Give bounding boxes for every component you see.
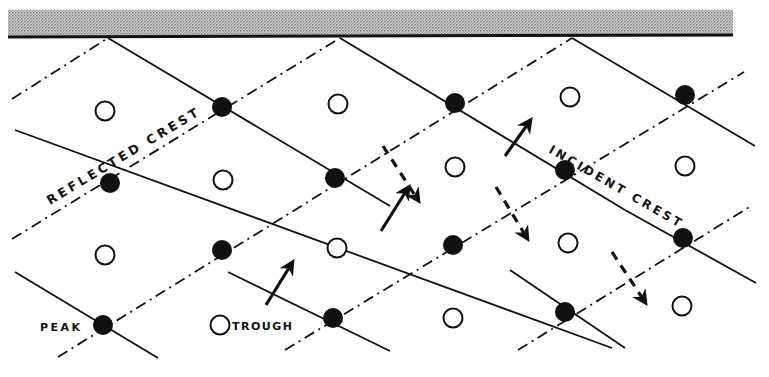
wall-edge (8, 35, 733, 37)
trough-circle (214, 171, 233, 190)
incident-direction-arrows (266, 121, 530, 305)
peak-dot (212, 240, 232, 260)
reflected-crest-line (12, 38, 108, 99)
incident-crest-line (228, 272, 390, 351)
incident-arrow-icon (381, 188, 408, 231)
reflected-arrow-icon (612, 252, 645, 302)
trough-circle (673, 297, 692, 316)
trough-label: TROUGH (232, 320, 294, 333)
peak-label: PEAK (40, 321, 83, 334)
peak-dot (212, 97, 232, 117)
reflected-crest-line (58, 38, 572, 357)
incident-arrow-icon (266, 263, 292, 305)
reflected-arrow-icon (496, 187, 527, 238)
trough-circle (446, 158, 465, 177)
incident-crest-line (340, 38, 625, 210)
trough-circle (559, 234, 578, 253)
peak-dot (673, 228, 693, 248)
trough-circle (329, 95, 348, 114)
peak-dot (555, 302, 575, 322)
reflected-crest-line (12, 38, 340, 239)
wave-reflection-diagram: REFLECTED CREST INCIDENT CREST PEAK TROU… (0, 0, 769, 377)
reflected-crest-line (518, 206, 751, 350)
incident-crest-line (572, 38, 755, 146)
trough-circle (96, 246, 115, 265)
peak-dot (443, 235, 463, 255)
reflecting-wall (8, 10, 733, 37)
wall-hatch (8, 10, 733, 36)
peak-dot (675, 85, 695, 105)
trough-circle (561, 88, 580, 107)
trough-circle (211, 316, 230, 335)
incident-crest-line (15, 272, 158, 358)
reflected-arrow-icon (383, 146, 418, 200)
incident-crest-line (108, 38, 390, 206)
reflected-crest-label: REFLECTED CREST (44, 104, 203, 208)
diagram-canvas: REFLECTED CREST INCIDENT CREST PEAK TROU… (0, 0, 769, 377)
diagram-labels: REFLECTED CREST INCIDENT CREST PEAK TROU… (40, 104, 686, 334)
peak-dot (323, 308, 343, 328)
trough-circle (328, 239, 347, 258)
trough-circle (96, 102, 115, 121)
peak-dot (93, 315, 113, 335)
trough-circle (444, 309, 463, 328)
incident-crest-label: INCIDENT CREST (547, 142, 687, 231)
peak-dot (445, 93, 465, 113)
peak-dot (325, 168, 345, 188)
trough-circle (676, 157, 695, 176)
